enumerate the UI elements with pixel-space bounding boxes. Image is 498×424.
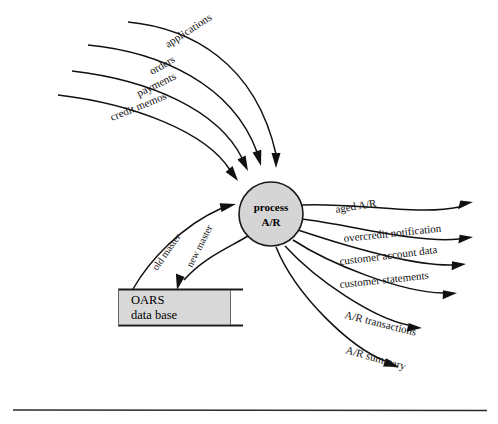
arrowhead-aged-ar: [458, 201, 473, 210]
arrowhead-overcredit-notification: [458, 235, 473, 244]
flow-label-new-master: new master: [184, 222, 215, 268]
arrowhead-customer-statements: [443, 290, 457, 299]
data-store-oars[interactable]: OARS data base: [118, 289, 243, 326]
output-flow-aged-ar: [302, 201, 473, 210]
process-node-ar[interactable]: process A/R: [239, 182, 303, 246]
data-store-label-line1: OARS: [131, 293, 164, 307]
flow-label-ar-transactions: A/R transactions: [344, 308, 418, 337]
flow-label-old-master: old master: [150, 231, 183, 272]
dfd-svg: OARS data base process A/R applications …: [0, 0, 498, 424]
flow-label-overcredit-notification: overcredit notification: [343, 222, 442, 244]
output-flow-ar-summary: [276, 247, 399, 367]
store-flow-old-master: [133, 203, 236, 289]
footer-rule: [13, 410, 487, 411]
flow-label-ar-summary: A/R summary: [344, 343, 407, 372]
arrowhead-new-master: [176, 274, 185, 291]
flow-label-customer-statements: customer statements: [339, 269, 429, 290]
arrowhead-customer-account-data: [452, 261, 466, 270]
dfd-canvas: OARS data base process A/R applications …: [0, 0, 498, 424]
output-flow-path-ar-summary: [276, 247, 385, 361]
arrowhead-applications: [272, 153, 281, 168]
process-label-line2: A/R: [262, 216, 282, 228]
arrowhead-old-master: [220, 203, 236, 212]
output-flow-path-aged-ar: [302, 205, 459, 210]
arrowhead-payments: [237, 155, 248, 171]
process-label-line1: process: [254, 201, 289, 213]
flow-label-aged-ar: aged A/R: [334, 197, 377, 215]
arrowhead-credit-memos: [226, 166, 238, 181]
arrowhead-orders: [253, 150, 262, 166]
data-store-label-line2: data base: [131, 308, 178, 322]
process-circle: [239, 182, 303, 246]
